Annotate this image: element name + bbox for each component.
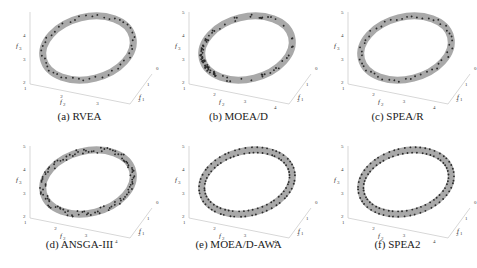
svg-text:1: 1 [342, 220, 345, 225]
plot-area: 2345f31234f2210f1 [159, 0, 318, 112]
caption: (c) SPEA/R [318, 110, 477, 122]
svg-text:3: 3 [182, 191, 185, 196]
subplot-rvea: 234f3123f2210f1 (a) RVEA [0, 0, 159, 134]
svg-text:3: 3 [19, 180, 22, 185]
subplot-spea2: 2345f31234f2210f1 (f) SPEA2 [318, 134, 477, 268]
svg-text:2: 2 [23, 80, 26, 85]
svg-text:2: 2 [372, 92, 375, 97]
svg-text:1: 1 [24, 86, 27, 91]
svg-text:1: 1 [147, 82, 150, 87]
svg-text:1: 1 [465, 82, 468, 87]
svg-text:5: 5 [341, 10, 344, 15]
caption: (e) MOEA/D-AWA [159, 238, 318, 250]
plot-area: 2345f31234f2210f1 [318, 0, 477, 112]
svg-text:2: 2 [63, 102, 66, 107]
svg-text:3: 3 [178, 180, 181, 185]
svg-text:3: 3 [23, 191, 26, 196]
caption: (a) RVEA [0, 110, 159, 122]
svg-text:3: 3 [341, 191, 344, 196]
svg-text:1: 1 [183, 220, 186, 225]
svg-text:1: 1 [306, 216, 309, 221]
svg-text:3: 3 [341, 57, 344, 62]
svg-text:2: 2 [341, 80, 344, 85]
svg-text:3: 3 [19, 46, 22, 51]
svg-text:4: 4 [341, 33, 344, 38]
subplot-spear: 2345f31234f2210f1 (c) SPEA/R [318, 0, 477, 134]
svg-text:1: 1 [460, 97, 463, 102]
svg-text:1: 1 [301, 97, 304, 102]
caption: (b) MOEA/D [159, 110, 318, 122]
svg-text:5: 5 [23, 144, 26, 149]
svg-text:4: 4 [341, 167, 344, 172]
svg-text:1: 1 [183, 86, 186, 91]
svg-text:2: 2 [182, 80, 185, 85]
svg-text:2: 2 [182, 214, 185, 219]
svg-text:2: 2 [23, 214, 26, 219]
plot-area: 234f3123f2210f1 [0, 0, 159, 112]
svg-text:2: 2 [341, 214, 344, 219]
svg-text:2: 2 [213, 92, 216, 97]
svg-text:1: 1 [24, 220, 27, 225]
svg-text:4: 4 [182, 33, 185, 38]
svg-text:5: 5 [182, 10, 185, 15]
plot-area: 2345f31234f2210f1 [159, 134, 318, 246]
svg-text:3: 3 [337, 46, 340, 51]
svg-text:3: 3 [403, 99, 406, 104]
svg-text:1: 1 [301, 231, 304, 236]
subplot-moead-awa: 2345f31234f2210f1 (e) MOEA/D-AWA [159, 134, 318, 268]
svg-text:1: 1 [142, 231, 145, 236]
caption: (d) ANSGA-III [0, 238, 159, 250]
svg-text:2: 2 [372, 226, 375, 231]
plot-area: 2345f31234f2210f1 [318, 134, 477, 246]
svg-text:1: 1 [465, 216, 468, 221]
svg-text:2: 2 [54, 226, 57, 231]
svg-text:1: 1 [342, 86, 345, 91]
plot-area: 2345f31234f2210f1 [0, 134, 159, 246]
svg-text:3: 3 [96, 101, 99, 106]
svg-text:1: 1 [306, 82, 309, 87]
svg-text:5: 5 [182, 144, 185, 149]
svg-text:1: 1 [147, 216, 150, 221]
subplot-moead: 2345f31234f2210f1 (b) MOEA/D [159, 0, 318, 134]
svg-text:4: 4 [23, 33, 26, 38]
svg-text:2: 2 [222, 102, 225, 107]
svg-text:5: 5 [341, 144, 344, 149]
svg-text:3: 3 [337, 180, 340, 185]
svg-text:3: 3 [23, 57, 26, 62]
svg-text:2: 2 [213, 226, 216, 231]
svg-text:3: 3 [178, 46, 181, 51]
subplot-ansga-iii: 2345f31234f2210f1 (d) ANSGA-III [0, 134, 159, 268]
svg-text:3: 3 [182, 57, 185, 62]
svg-text:1: 1 [142, 97, 145, 102]
svg-text:1: 1 [460, 231, 463, 236]
caption: (f) SPEA2 [318, 238, 477, 250]
svg-text:3: 3 [244, 99, 247, 104]
svg-text:4: 4 [23, 167, 26, 172]
svg-text:4: 4 [182, 167, 185, 172]
svg-text:2: 2 [381, 102, 384, 107]
